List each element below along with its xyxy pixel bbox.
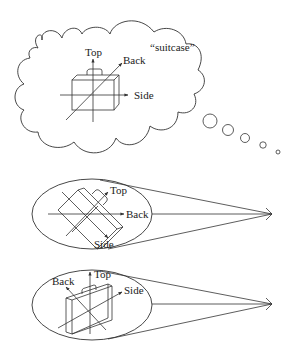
axis-label-top-upper: Top — [110, 184, 127, 196]
axes-cloud — [60, 59, 128, 122]
axes-upper — [48, 192, 124, 238]
view-ellipse-lower — [32, 270, 152, 340]
suitcase-icon-lower — [66, 284, 112, 334]
axis-label-side: Side — [134, 89, 154, 101]
thought-cloud: “suitcase” Top Back Side — [15, 21, 204, 153]
view-lower: Back Top Side — [32, 268, 272, 340]
axis-label-top-lower: Top — [94, 268, 111, 280]
thought-bubbles — [203, 114, 280, 154]
axis-label-back: Back — [123, 54, 146, 66]
bubble-5 — [276, 150, 280, 154]
bubble-2 — [223, 125, 234, 136]
bubble-1 — [203, 114, 217, 128]
bubble-4 — [260, 142, 266, 148]
axis-label-back-lower: Back — [52, 275, 75, 287]
view-upper: Top Back Side — [32, 179, 272, 250]
axis-label-side-upper: Side — [94, 238, 114, 250]
bubble-3 — [241, 134, 250, 143]
sight-line-bottom — [108, 304, 272, 339]
axis-label-side-lower: Side — [124, 284, 144, 296]
word-label-suitcase: “suitcase” — [150, 41, 195, 53]
diagram-canvas: “suitcase” Top Back Side — [0, 0, 296, 356]
axis-label-back-upper: Back — [126, 208, 149, 220]
axis-label-top: Top — [85, 46, 102, 58]
